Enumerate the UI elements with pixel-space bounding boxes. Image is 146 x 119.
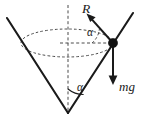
lower-angle-label: α	[77, 81, 84, 93]
particle-bead-marker	[108, 38, 117, 47]
upper-angle-label: α	[87, 26, 94, 38]
physics-diagram-figure: R mg α α	[0, 0, 146, 119]
conical-pendulum-diagram: R mg α α	[0, 0, 146, 119]
diagram-background	[0, 0, 146, 119]
tension-label: R	[81, 1, 91, 16]
weight-label: mg	[119, 79, 135, 94]
